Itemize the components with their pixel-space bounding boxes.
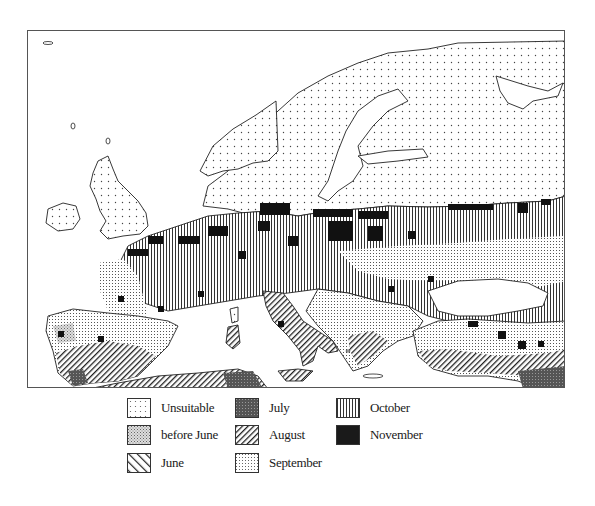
region-britain [90, 156, 148, 239]
swatch-wide-diagonal-icon [127, 453, 151, 473]
legend-item-october: October [336, 397, 410, 419]
swatch-vertical-lines-icon [336, 398, 360, 418]
swatch-fine-diagonal-icon [235, 425, 259, 445]
map-svg [28, 31, 565, 388]
legend-label: September [269, 455, 322, 471]
swatch-dark-stipple-icon [235, 398, 259, 418]
swatch-grid-dots-icon [235, 453, 259, 473]
legend-item-unsuitable: Unsuitable [127, 397, 214, 419]
swatch-sparse-dots-icon [127, 398, 151, 418]
region-sicily [278, 369, 313, 381]
region-ireland [46, 203, 80, 231]
region-corsica [230, 307, 238, 323]
legend-item-november: November [336, 424, 422, 446]
legend-item-august: August [235, 424, 305, 446]
swatch-dense-stipple-icon [127, 425, 151, 445]
europe-map [27, 30, 565, 388]
legend-item-june: June [127, 452, 184, 474]
swatch-solid-black-icon [336, 425, 360, 445]
legend-label: July [269, 400, 289, 416]
legend-label: before June [161, 427, 218, 443]
legend-item-before-june: before June [127, 424, 218, 446]
legend-label: October [370, 400, 410, 416]
region-sardinia [226, 325, 240, 349]
legend-label: August [269, 427, 305, 443]
legend-item-july: July [235, 397, 289, 419]
region-north-africa-july [223, 371, 263, 388]
legend-label: November [370, 427, 422, 443]
legend-item-september: September [235, 452, 322, 474]
legend-label: Unsuitable [161, 400, 214, 416]
legend-label: June [161, 455, 184, 471]
